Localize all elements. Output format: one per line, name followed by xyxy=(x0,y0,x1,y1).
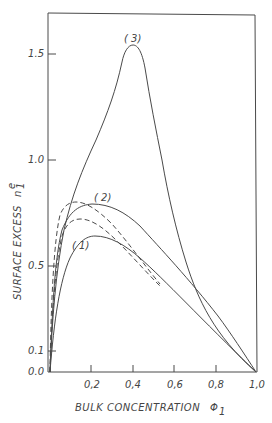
y-tick-0.5: 0.5 xyxy=(28,260,44,271)
x-tick-labels: 0,2 0,4 0,6 0,8 1,0 xyxy=(84,379,265,390)
curve-3-label: ( 3) xyxy=(124,33,141,44)
x-tick-0.4: 0,4 xyxy=(125,379,141,390)
x-axis-subscript: 1 xyxy=(219,406,226,417)
curve-2 xyxy=(50,204,256,372)
x-axis-title: BULK CONCENTRATION Φ 1 xyxy=(75,402,226,417)
y-tick-0.1: 0.1 xyxy=(28,345,44,356)
curve-3 xyxy=(50,45,256,372)
curve-dashed-lower xyxy=(50,219,160,372)
curve-dashed-upper xyxy=(50,202,160,372)
curve-1 xyxy=(50,236,256,372)
y-axis-symbol: n xyxy=(12,190,23,197)
x-axis-symbol: Φ xyxy=(210,402,218,413)
y-tick-labels: 1.5 1.0 0.5 0.1 0.0 xyxy=(28,48,44,377)
chart: 1.5 1.0 0.5 0.1 0.0 0,2 0,4 0,6 0,8 1,0 … xyxy=(0,0,272,423)
x-ticks xyxy=(91,365,216,372)
curve-2-label: ( 2) xyxy=(94,192,111,203)
y-tick-1.5: 1.5 xyxy=(28,48,44,59)
x-tick-1.0: 1,0 xyxy=(249,379,265,390)
x-tick-0.8: 0,8 xyxy=(208,379,224,390)
x-axis-label: BULK CONCENTRATION xyxy=(75,402,200,413)
y-axis-title: SURFACE EXCESS n 1 e xyxy=(6,182,26,300)
y-axis-label: SURFACE EXCESS xyxy=(12,205,23,300)
x-tick-0.2: 0,2 xyxy=(84,379,100,390)
y-axis-superscript: e xyxy=(6,182,17,189)
plot-frame xyxy=(48,13,257,372)
x-tick-0.6: 0,6 xyxy=(167,379,183,390)
curve-1-label: ( 1) xyxy=(72,240,89,251)
y-tick-1.0: 1.0 xyxy=(28,154,44,165)
curves xyxy=(50,45,256,372)
y-tick-0.0: 0.0 xyxy=(28,366,44,377)
